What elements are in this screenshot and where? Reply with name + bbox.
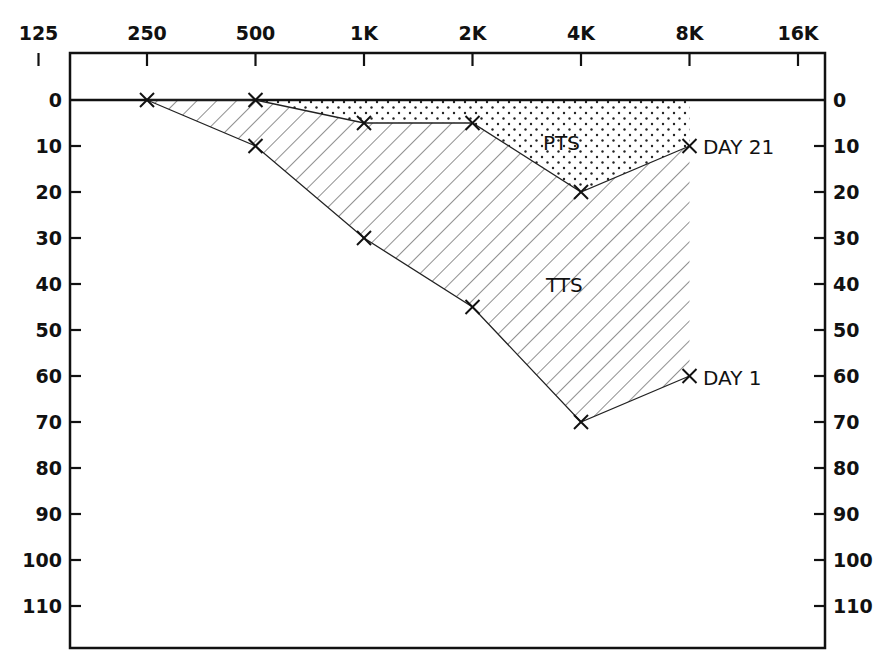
pts-label: PTS bbox=[543, 131, 580, 155]
y-tick-label-left: 50 bbox=[36, 319, 62, 341]
y-tick-label-right: 10 bbox=[833, 135, 859, 157]
y-tick-label-left: 90 bbox=[36, 503, 62, 525]
y-tick-label-left: 10 bbox=[36, 135, 62, 157]
y-tick-label-left: 110 bbox=[22, 595, 62, 617]
y-tick-label-right: 20 bbox=[833, 181, 859, 203]
y-tick-label-left: 60 bbox=[36, 365, 62, 387]
x-tick-label: 125 bbox=[19, 22, 59, 44]
day21-label: DAY 21 bbox=[703, 135, 774, 159]
x-tick-label: 4K bbox=[567, 22, 596, 44]
y-tick-label-right: 30 bbox=[833, 227, 859, 249]
y-axis-left-ticks: 0102030405060708090100110 bbox=[22, 89, 81, 617]
y-tick-label-left: 20 bbox=[36, 181, 62, 203]
y-tick-label-right: 50 bbox=[833, 319, 859, 341]
tts-label: TTS bbox=[545, 273, 583, 297]
x-tick-label: 2K bbox=[459, 22, 488, 44]
y-tick-label-left: 0 bbox=[49, 89, 62, 111]
y-tick-label-right: 110 bbox=[833, 595, 873, 617]
y-tick-label-right: 80 bbox=[833, 457, 859, 479]
y-tick-label-right: 0 bbox=[833, 89, 846, 111]
y-tick-label-left: 80 bbox=[36, 457, 62, 479]
day1-label: DAY 1 bbox=[703, 366, 761, 390]
y-tick-label-right: 40 bbox=[833, 273, 859, 295]
y-tick-label-left: 40 bbox=[36, 273, 62, 295]
x-tick-label: 8K bbox=[676, 22, 705, 44]
x-tick-label: 250 bbox=[127, 22, 167, 44]
y-tick-label-right: 70 bbox=[833, 411, 859, 433]
x-axis-ticks: 1252505001K2K4K8K16K bbox=[19, 22, 820, 66]
y-tick-label-right: 90 bbox=[833, 503, 859, 525]
x-tick-label: 500 bbox=[236, 22, 276, 44]
y-axis-right-ticks: 0102030405060708090100110 bbox=[814, 89, 873, 617]
y-tick-label-left: 30 bbox=[36, 227, 62, 249]
y-tick-label-right: 100 bbox=[833, 549, 873, 571]
y-tick-label-right: 60 bbox=[833, 365, 859, 387]
x-tick-label: 1K bbox=[350, 22, 379, 44]
y-tick-label-left: 100 bbox=[22, 549, 62, 571]
audiogram-chart: 1252505001K2K4K8K16K 0102030405060708090… bbox=[0, 0, 893, 666]
y-tick-label-left: 70 bbox=[36, 411, 62, 433]
x-tick-label: 16K bbox=[777, 22, 819, 44]
